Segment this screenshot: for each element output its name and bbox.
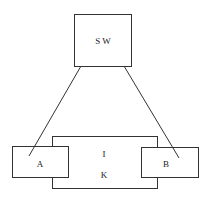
diagram-canvas: S W I K A B [0, 0, 209, 199]
b-box [142, 148, 199, 178]
b-label: B [163, 159, 169, 169]
sw-label: S W [95, 36, 111, 46]
ik-label-bottom: K [101, 170, 108, 180]
ik-label-top: I [103, 149, 106, 159]
a-label: A [37, 159, 44, 169]
